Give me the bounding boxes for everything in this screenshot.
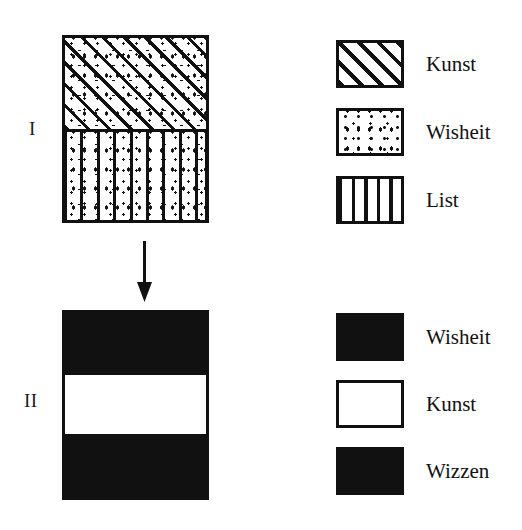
legend-item-wisheit: Wisheit <box>336 108 490 156</box>
legend-diagram-i: Kunst Wisheit List <box>336 40 490 224</box>
stacked-bar-ii <box>62 310 209 500</box>
band-ii-wisheit <box>65 313 206 372</box>
legend-label-wisheit: Wisheit <box>426 122 490 143</box>
legend-item-kunst-blank: Kunst <box>336 380 490 428</box>
swatch-blank-icon <box>336 380 404 428</box>
down-arrow <box>130 240 160 304</box>
swatch-vertical-lines-icon <box>336 176 404 224</box>
swatch-diagonal-hatch-icon <box>336 40 404 88</box>
legend-item-kunst: Kunst <box>336 40 490 88</box>
legend-label-wizzen: Wizzen <box>426 461 489 482</box>
legend-label-wisheit-ii: Wisheit <box>426 327 490 348</box>
band-ii-wizzen <box>65 434 206 497</box>
stacked-bar-i <box>62 35 209 223</box>
swatch-stipple-dots-icon <box>336 108 404 156</box>
swatch-cross-hatch-icon <box>336 313 404 361</box>
band-ii-kunst <box>65 372 206 435</box>
legend-item-list: List <box>336 176 490 224</box>
legend-diagram-ii: Wisheit Kunst Wizzen <box>336 313 490 495</box>
band-i-kunst-wisheit <box>65 38 206 129</box>
legend-label-list: List <box>426 190 459 211</box>
legend-item-wizzen: Wizzen <box>336 447 490 495</box>
diagram-label-ii: II <box>24 391 38 410</box>
diagram-label-i: I <box>29 119 36 138</box>
legend-label-kunst: Kunst <box>426 54 476 75</box>
swatch-square-grid-icon <box>336 447 404 495</box>
legend-item-wisheit-cross: Wisheit <box>336 313 490 361</box>
figure-canvas: I II Kunst Wisheit <box>0 0 522 530</box>
band-i-list-wisheit <box>65 129 206 220</box>
legend-label-kunst-ii: Kunst <box>426 394 476 415</box>
